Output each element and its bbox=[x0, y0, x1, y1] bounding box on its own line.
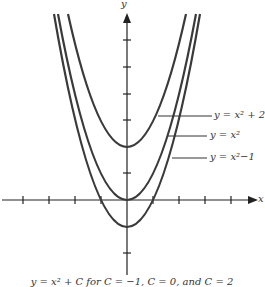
y-axis-label: y bbox=[121, 0, 127, 9]
label-cm1: y = x²−1 bbox=[210, 151, 255, 162]
label-c2: y = x² + 2 bbox=[214, 109, 265, 120]
x-axis-arrow-icon bbox=[248, 196, 258, 204]
label-c0: y = x² bbox=[210, 129, 240, 140]
y-axis-arrow-icon bbox=[123, 13, 131, 23]
figure-caption: y = x² + C for C = −1, C = 0, and C = 2 bbox=[0, 276, 264, 287]
x-axis-label: x bbox=[258, 193, 264, 204]
